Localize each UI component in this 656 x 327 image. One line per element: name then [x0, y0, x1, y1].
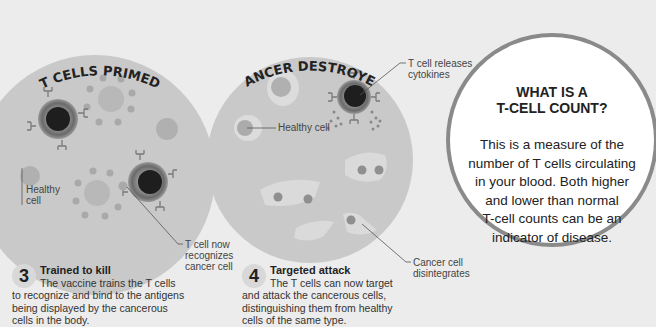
step-title: Targeted attack: [242, 264, 442, 277]
t-cells-primed-panel: T CELLS PRIMED: [0, 55, 215, 295]
healthy-cell-icon: [156, 118, 178, 140]
step-3: 3 Trained to kill The vaccine trains the…: [12, 264, 222, 327]
healthy-cell-label: Healthy cell: [26, 184, 60, 206]
step-title: Trained to kill: [12, 264, 222, 277]
info-heading: WHAT IS A T-CELL COUNT?: [447, 84, 656, 116]
info-body: This is a measure of the number of T cel…: [447, 136, 656, 247]
step-number-badge: 4: [242, 264, 266, 288]
healthy-cell-icon: [20, 166, 40, 186]
step-4: 4 Targeted attack The T cells can now ta…: [242, 264, 442, 327]
t-cell-count-info: WHAT IS A T-CELL COUNT? This is a measur…: [447, 40, 656, 250]
healthy-cell-label: Healthy cell: [278, 122, 330, 133]
step-number-badge: 3: [12, 264, 36, 288]
